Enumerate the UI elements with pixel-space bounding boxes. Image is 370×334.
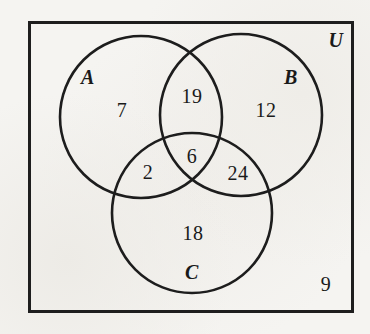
venn-diagram-page: U A B C 7 19 12 6 2 24 18 9 (0, 0, 370, 334)
set-a-label: A (81, 67, 95, 87)
set-a-circle (60, 36, 222, 198)
region-value-b-and-c: 24 (228, 163, 249, 183)
region-value-a-only: 7 (117, 100, 128, 120)
set-b-label: B (284, 67, 298, 87)
region-value-a-b-c: 6 (187, 146, 198, 166)
region-value-outside: 9 (321, 274, 332, 294)
region-value-c-only: 18 (183, 223, 204, 243)
set-c-label: C (185, 262, 199, 282)
region-value-a-and-b: 19 (182, 86, 203, 106)
region-value-a-and-c: 2 (143, 162, 154, 182)
region-value-b-only: 12 (256, 100, 277, 120)
universal-set-label: U (329, 30, 344, 50)
venn-diagram-figure (0, 0, 370, 334)
